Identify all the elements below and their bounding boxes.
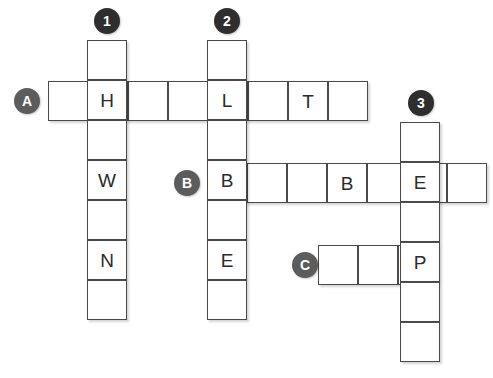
crossword-cell-empty[interactable] xyxy=(400,202,440,242)
crossword-cell-empty[interactable] xyxy=(207,40,247,80)
clue-marker-b[interactable]: B xyxy=(174,170,200,196)
crossword-puzzle: HLTBBEPHWNLBEEP123ABC xyxy=(0,0,493,378)
crossword-cell-filled[interactable]: E xyxy=(400,162,440,202)
crossword-cell-empty[interactable] xyxy=(87,280,127,320)
crossword-cell-filled[interactable]: L xyxy=(207,80,247,120)
crossword-cell-empty[interactable] xyxy=(168,81,208,121)
clue-marker-1[interactable]: 1 xyxy=(94,8,120,34)
crossword-cell-empty[interactable] xyxy=(87,200,127,240)
crossword-cell-empty[interactable] xyxy=(207,280,247,320)
crossword-cell-filled[interactable]: B xyxy=(207,160,247,200)
clue-marker-a[interactable]: A xyxy=(14,88,40,114)
crossword-cell-empty[interactable] xyxy=(447,163,487,203)
crossword-cell-empty[interactable] xyxy=(287,163,327,203)
crossword-cell-empty[interactable] xyxy=(48,81,88,121)
crossword-cell-filled[interactable]: P xyxy=(400,242,440,282)
crossword-cell-empty[interactable] xyxy=(400,322,440,362)
crossword-cell-empty[interactable] xyxy=(207,120,247,160)
crossword-cell-filled[interactable]: E xyxy=(207,240,247,280)
crossword-cell-filled[interactable]: H xyxy=(87,80,127,120)
crossword-cell-empty[interactable] xyxy=(207,200,247,240)
crossword-cell-empty[interactable] xyxy=(248,81,288,121)
crossword-cell-filled[interactable]: T xyxy=(288,81,328,121)
crossword-cell-filled[interactable]: N xyxy=(87,240,127,280)
crossword-cell-empty[interactable] xyxy=(328,81,368,121)
clue-marker-c[interactable]: C xyxy=(292,252,318,278)
clue-marker-3[interactable]: 3 xyxy=(408,90,434,116)
crossword-cell-empty[interactable] xyxy=(128,81,168,121)
crossword-cell-empty[interactable] xyxy=(358,245,398,285)
crossword-cell-filled[interactable]: W xyxy=(87,160,127,200)
crossword-cell-empty[interactable] xyxy=(318,245,358,285)
crossword-cell-empty[interactable] xyxy=(87,120,127,160)
crossword-cell-filled[interactable]: B xyxy=(327,163,367,203)
crossword-cell-empty[interactable] xyxy=(400,122,440,162)
crossword-cell-empty[interactable] xyxy=(87,40,127,80)
crossword-cell-empty[interactable] xyxy=(247,163,287,203)
crossword-cell-empty[interactable] xyxy=(400,282,440,322)
clue-marker-2[interactable]: 2 xyxy=(214,8,240,34)
